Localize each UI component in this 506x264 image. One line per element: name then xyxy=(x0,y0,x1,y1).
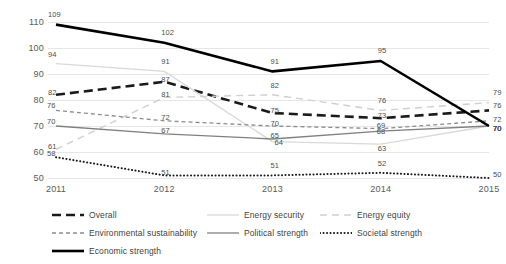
y-tick-80: 80 xyxy=(14,95,44,105)
legend-swatch-environmental-sustainability-icon xyxy=(52,228,84,238)
data-label-economic-strength-2011: 109 xyxy=(48,11,61,19)
data-label-political-strength-2012: 67 xyxy=(161,127,170,135)
legend-swatch-political-strength-icon xyxy=(207,228,239,238)
data-label-economic-strength-2012: 102 xyxy=(161,29,174,37)
legend-label: Political strength xyxy=(244,228,308,238)
data-label-overall-2014: 73 xyxy=(378,112,387,120)
y-tick-90: 90 xyxy=(14,69,44,79)
y-tick-100: 100 xyxy=(14,43,44,53)
data-label-environmental-sustainability-2011: 76 xyxy=(47,102,56,110)
data-label-economic-strength-2014: 95 xyxy=(378,47,387,55)
data-label-economic-strength-2015: 70 xyxy=(493,125,502,133)
gridlines xyxy=(48,22,489,178)
legend-swatch-overall-icon xyxy=(52,210,84,220)
y-tick-110: 110 xyxy=(14,17,44,27)
x-tick-2015: 2015 xyxy=(459,184,506,194)
data-label-political-strength-2011: 70 xyxy=(47,118,56,126)
chart-legend: OverallEnergy securityEnergy equityEnvir… xyxy=(0,205,497,264)
data-label-environmental-sustainability-2015: 72 xyxy=(493,116,502,124)
data-label-societal-strength-2013: 51 xyxy=(271,162,280,170)
legend-label: Overall xyxy=(89,210,117,220)
legend-item-societal-strength[interactable]: Societal strength xyxy=(320,227,422,239)
legend-item-political-strength[interactable]: Political strength xyxy=(207,227,308,239)
data-label-societal-strength-2014: 52 xyxy=(378,160,387,168)
x-tick-2012: 2012 xyxy=(134,184,194,194)
y-tick-60: 60 xyxy=(14,147,44,157)
legend-swatch-economic-strength-icon xyxy=(52,246,84,256)
x-tick-2013: 2013 xyxy=(243,184,303,194)
y-tick-70: 70 xyxy=(14,121,44,131)
legend-label: Energy security xyxy=(244,210,304,220)
data-label-political-strength-2013: 65 xyxy=(271,132,280,140)
data-label-overall-2013: 75 xyxy=(271,107,280,115)
legend-swatch-energy-equity-icon xyxy=(320,210,352,220)
legend-swatch-energy-security-icon xyxy=(207,210,239,220)
data-label-environmental-sustainability-2013: 70 xyxy=(271,120,280,128)
legend-item-economic-strength[interactable]: Economic strength xyxy=(52,245,161,257)
data-label-overall-2015: 76 xyxy=(493,102,502,110)
data-label-overall-2011: 82 xyxy=(48,89,57,97)
data-label-energy-equity-2015: 79 xyxy=(493,89,502,97)
data-label-political-strength-2014: 68 xyxy=(377,128,386,136)
legend-label: Environmental sustainability xyxy=(89,228,197,238)
legend-item-energy-security[interactable]: Energy security xyxy=(207,209,304,221)
legend-item-overall[interactable]: Overall xyxy=(52,209,117,221)
data-label-energy-security-2011: 94 xyxy=(48,51,57,59)
y-tick-50: 50 xyxy=(14,173,44,183)
legend-label: Economic strength xyxy=(89,246,161,256)
x-tick-2014: 2014 xyxy=(351,184,411,194)
data-label-energy-equity-2012: 81 xyxy=(161,91,170,99)
data-label-environmental-sustainability-2012: 72 xyxy=(161,114,170,122)
data-label-energy-equity-2014: 76 xyxy=(378,97,387,105)
data-label-economic-strength-2013: 91 xyxy=(271,58,280,66)
x-tick-2011: 2011 xyxy=(26,184,86,194)
data-label-societal-strength-2012: 51 xyxy=(161,169,170,177)
data-label-overall-2012: 87 xyxy=(161,76,170,84)
legend-item-energy-equity[interactable]: Energy equity xyxy=(320,209,410,221)
data-label-energy-equity-2013: 82 xyxy=(271,82,280,90)
data-label-societal-strength-2015: 50 xyxy=(493,171,502,179)
data-label-energy-security-2012: 91 xyxy=(161,58,170,66)
legend-label: Energy equity xyxy=(357,210,410,220)
legend-label: Societal strength xyxy=(357,228,422,238)
data-label-societal-strength-2011: 58 xyxy=(47,150,56,158)
data-label-energy-security-2014: 63 xyxy=(378,145,387,153)
legend-item-environmental-sustainability[interactable]: Environmental sustainability xyxy=(52,227,197,239)
legend-swatch-societal-strength-icon xyxy=(320,228,352,238)
